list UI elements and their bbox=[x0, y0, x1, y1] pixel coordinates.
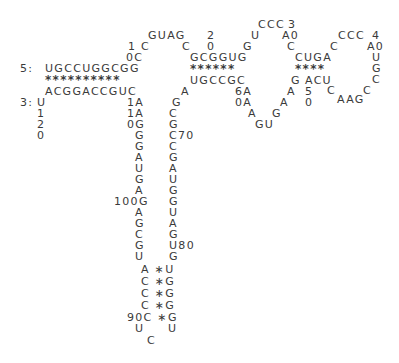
hairpin-u1: U bbox=[135, 323, 144, 334]
rna-structure-diagram: 5:3:UGCCUGGCGG**********ACGGACCGUCU1201C… bbox=[0, 0, 399, 363]
int-a3: A bbox=[287, 86, 296, 97]
num10-0c: 0C bbox=[126, 52, 143, 63]
loop2-u: U bbox=[251, 30, 260, 41]
five-prime-label: 5: bbox=[20, 63, 33, 74]
loop3-aag: AAG bbox=[337, 94, 365, 105]
loop3-ccc: CCC bbox=[338, 30, 365, 41]
loop2-g: G bbox=[243, 41, 253, 52]
loop3-c2: C bbox=[372, 74, 381, 85]
left-u2: U bbox=[135, 251, 144, 262]
stem4-row3: C ∗G bbox=[141, 288, 175, 299]
stem4-row1: A ∗U bbox=[141, 264, 175, 275]
loop3-c1: C bbox=[330, 41, 339, 52]
loop-guag: GUAG bbox=[148, 30, 186, 41]
loop3-c4: C bbox=[327, 85, 336, 96]
int-a2: A bbox=[280, 97, 289, 108]
stem1-bottom: ACGGACCGUC bbox=[45, 86, 137, 97]
hairpin-u2: U bbox=[168, 323, 177, 334]
right-g7: G bbox=[169, 251, 179, 262]
a-left: A bbox=[181, 86, 190, 97]
int-gu: GU bbox=[255, 119, 274, 130]
int-g: G bbox=[272, 108, 282, 119]
hairpin-c: C bbox=[147, 335, 156, 346]
tail-0: 0 bbox=[37, 130, 45, 141]
stem4-row2: C ∗G bbox=[141, 276, 175, 287]
loop2-ccc: CCC bbox=[258, 19, 285, 30]
three-prime-label: 3: bbox=[20, 97, 33, 108]
stem4-row4: C ∗G bbox=[141, 300, 175, 311]
num50-0: 0 bbox=[305, 97, 313, 108]
